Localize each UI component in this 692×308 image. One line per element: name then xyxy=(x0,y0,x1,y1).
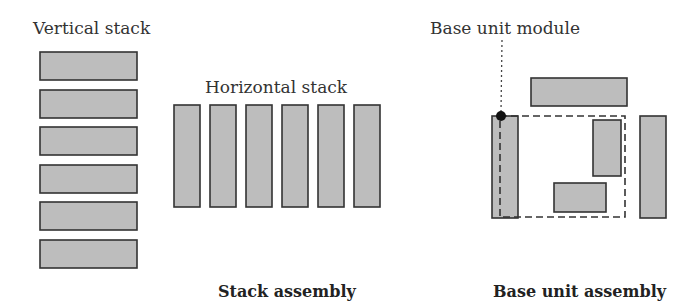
horizontal-stack-bar xyxy=(318,105,344,207)
module-anchor-dot xyxy=(496,111,506,121)
vertical-stack-bar xyxy=(40,240,137,268)
horizontal-stack-bar xyxy=(354,105,380,207)
vertical-stack-group xyxy=(40,52,137,268)
vertical-stack-bar xyxy=(40,90,137,118)
module-horizontal-block xyxy=(554,183,606,212)
horizontal-stack-label: Horizontal stack xyxy=(205,77,348,97)
left-pillar xyxy=(492,116,518,218)
vertical-stack-label: Vertical stack xyxy=(32,18,151,38)
top-bar xyxy=(531,78,627,106)
base-unit-group xyxy=(492,40,666,218)
assembly-diagram: Vertical stack Horizontal stack Base uni… xyxy=(0,0,692,308)
vertical-stack-bar xyxy=(40,165,137,193)
base-unit-assembly-caption: Base unit assembly xyxy=(493,282,667,301)
leader-line xyxy=(501,40,502,112)
vertical-stack-bar xyxy=(40,52,137,80)
horizontal-stack-bar xyxy=(282,105,308,207)
right-pillar xyxy=(640,116,666,218)
horizontal-stack-bar xyxy=(246,105,272,207)
horizontal-stack-bar xyxy=(174,105,200,207)
vertical-stack-bar xyxy=(40,202,137,230)
base-unit-module-label: Base unit module xyxy=(430,18,580,38)
vertical-stack-bar xyxy=(40,127,137,155)
module-vertical-block xyxy=(593,120,621,176)
horizontal-stack-group xyxy=(174,105,380,207)
horizontal-stack-bar xyxy=(210,105,236,207)
stack-assembly-caption: Stack assembly xyxy=(218,282,356,301)
